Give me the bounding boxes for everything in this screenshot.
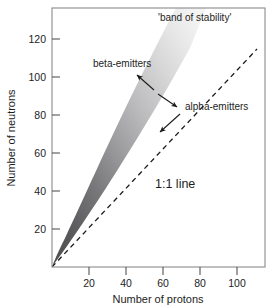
x-tick-label: 40 <box>120 277 132 289</box>
y-tick-labels: 20 40 60 80 100 120 <box>28 33 46 235</box>
y-tick-label: 60 <box>34 147 46 159</box>
annotation-band-of-stability: 'band of stability' <box>158 12 231 23</box>
x-tick-label: 100 <box>228 277 246 289</box>
x-axis-ticks <box>89 267 237 275</box>
x-axis-title: Number of protons <box>112 293 204 305</box>
annotation-beta-emitters: beta-emitters <box>93 58 151 69</box>
y-tick-label: 20 <box>34 223 46 235</box>
y-tick-label: 80 <box>34 109 46 121</box>
y-tick-label: 100 <box>28 71 46 83</box>
chart-canvas: 20 40 60 80 100 120 20 40 60 80 100 Numb… <box>0 0 275 307</box>
y-tick-label: 40 <box>34 185 46 197</box>
nuclide-stability-chart: 20 40 60 80 100 120 20 40 60 80 100 Numb… <box>0 0 275 307</box>
y-axis-title: Number of neutrons <box>5 89 17 187</box>
x-tick-label: 20 <box>83 277 95 289</box>
x-tick-label: 80 <box>194 277 206 289</box>
x-tick-labels: 20 40 60 80 100 <box>83 277 246 289</box>
annotation-one-to-one-line: 1:1 line <box>155 177 195 191</box>
y-tick-label: 120 <box>28 33 46 45</box>
x-tick-label: 60 <box>157 277 169 289</box>
annotation-alpha-emitters: alpha-emitters <box>185 101 248 112</box>
